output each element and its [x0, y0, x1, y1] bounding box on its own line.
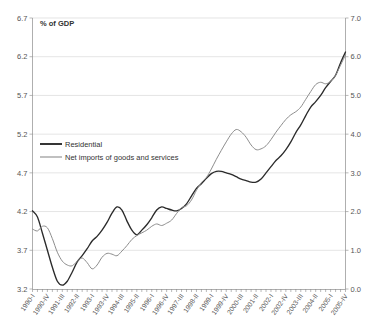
y-tick-label-left: 4.2 [17, 207, 27, 216]
y-tick-label-left: 6.2 [17, 52, 27, 61]
gridlines [33, 18, 346, 250]
chart-container: 6.76.25.75.24.74.23.73.2 7.06.05.04.03.0… [0, 0, 379, 333]
x-tick-label: 2004-II [301, 292, 319, 313]
y-tick-label-right: 4.0 [351, 130, 361, 139]
x-tick-label: 1995-II [122, 292, 140, 313]
y-tick-label-right: 6.0 [351, 52, 361, 61]
x-axis-labels: 1990-I1990-IV1991-III1992-II1993-I1993-I… [19, 292, 349, 316]
y-tick-label-left: 4.7 [17, 169, 27, 178]
unit-label: % of GDP [40, 19, 74, 28]
y-tick-label-right: 5.0 [351, 91, 361, 100]
legend-label: Net imports of goods and services [65, 153, 179, 162]
y-tick-label-right: 1.0 [351, 246, 361, 255]
series-line-net-imports-of-goods-and-services [33, 55, 346, 269]
y-axis-right-labels: 7.06.05.04.03.02.01.00.0 [351, 14, 361, 294]
y-axis-right-ticks [346, 18, 349, 289]
y-tick-label-right: 2.0 [351, 207, 361, 216]
x-tick-label: 1992-II [63, 292, 81, 313]
y-axis-left-ticks [30, 18, 33, 289]
y-tick-label-left: 5.2 [17, 130, 27, 139]
y-tick-label-right: 7.0 [351, 14, 361, 23]
y-axis-left-labels: 6.76.25.75.24.74.23.73.2 [17, 14, 27, 294]
x-tick-label: 2001-II [242, 292, 260, 313]
legend: ResidentialNet imports of goods and serv… [40, 140, 179, 162]
line-chart: 6.76.25.75.24.74.23.73.2 7.06.05.04.03.0… [0, 0, 379, 333]
y-tick-label-right: 3.0 [351, 169, 361, 178]
y-tick-label-left: 3.7 [17, 246, 27, 255]
y-tick-label-left: 6.7 [17, 14, 27, 23]
y-tick-label-right: 0.0 [351, 285, 361, 294]
y-tick-label-left: 5.7 [17, 91, 27, 100]
legend-label: Residential [65, 140, 102, 149]
x-tick-label: 1998-II [182, 292, 200, 313]
y-tick-label-left: 3.2 [17, 285, 27, 294]
